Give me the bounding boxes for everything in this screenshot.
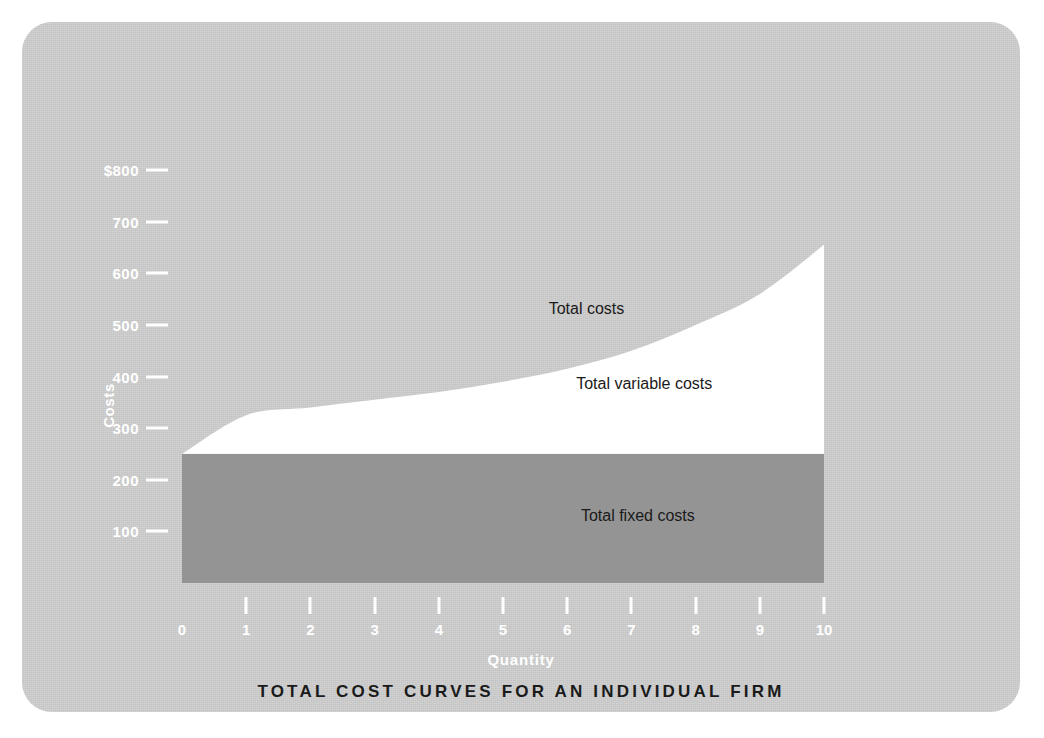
y-tick-label: 500: [79, 316, 139, 333]
y-tick-label: 600: [79, 265, 139, 282]
curve-annotation-label: Total costs: [549, 300, 625, 318]
x-tick-label: 0: [162, 621, 202, 638]
x-tick-mark: [245, 597, 248, 614]
x-axis-label: Quantity: [22, 651, 1020, 668]
cost-areas-svg: [22, 22, 1020, 712]
x-tick-mark: [823, 597, 826, 614]
x-tick-mark: [758, 597, 761, 614]
y-tick-label: 200: [79, 471, 139, 488]
total-variable-costs-area: [182, 245, 824, 454]
curve-annotation-label: Total variable costs: [576, 375, 712, 393]
x-tick-mark: [694, 597, 697, 614]
y-tick-mark: [146, 220, 168, 223]
y-tick-mark: [146, 530, 168, 533]
y-tick-label: 700: [79, 213, 139, 230]
x-tick-mark: [502, 597, 505, 614]
x-tick-label: 9: [740, 621, 780, 638]
figure-root: $800700600500400300200100 012345678910 T…: [0, 0, 1044, 738]
plot-area: $800700600500400300200100 012345678910 T…: [22, 22, 1020, 712]
y-tick-label: 100: [79, 523, 139, 540]
x-tick-label: 8: [676, 621, 716, 638]
x-tick-label: 6: [547, 621, 587, 638]
total-fixed-costs-area: [182, 454, 824, 583]
y-tick-mark: [146, 272, 168, 275]
curve-annotation-label: Total fixed costs: [581, 507, 695, 525]
x-tick-label: 3: [355, 621, 395, 638]
y-tick-mark: [146, 169, 168, 172]
x-tick-label: 4: [419, 621, 459, 638]
y-tick-mark: [146, 323, 168, 326]
chart-card: $800700600500400300200100 012345678910 T…: [22, 22, 1020, 712]
x-tick-mark: [437, 597, 440, 614]
x-tick-mark: [566, 597, 569, 614]
x-tick-label: 10: [804, 621, 844, 638]
x-tick-label: 2: [290, 621, 330, 638]
x-tick-mark: [373, 597, 376, 614]
x-tick-mark: [630, 597, 633, 614]
y-axis-label: Costs: [100, 383, 117, 428]
x-tick-label: 1: [226, 621, 266, 638]
y-tick-mark: [146, 427, 168, 430]
chart-title: TOTAL COST CURVES FOR AN INDIVIDUAL FIRM: [22, 682, 1020, 702]
x-tick-mark: [309, 597, 312, 614]
x-tick-label: 5: [483, 621, 523, 638]
y-tick-mark: [146, 478, 168, 481]
y-tick-label: $800: [79, 162, 139, 179]
x-tick-label: 7: [611, 621, 651, 638]
y-tick-mark: [146, 375, 168, 378]
